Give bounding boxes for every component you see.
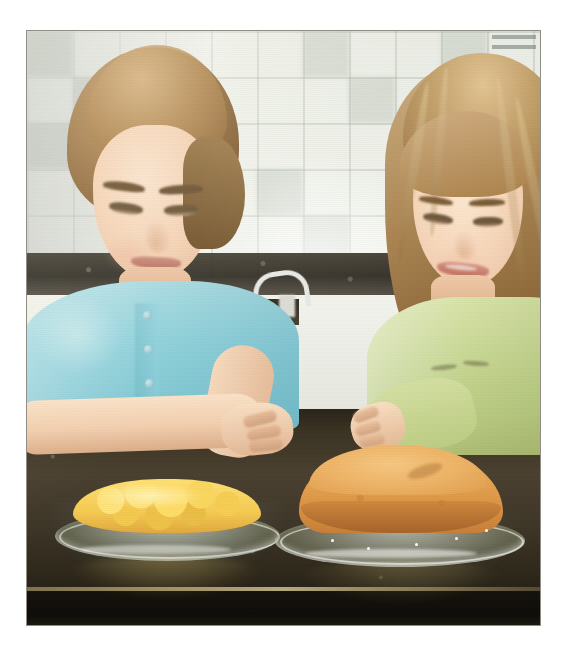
sponge-cake-dish bbox=[275, 443, 525, 573]
girl-left bbox=[27, 45, 307, 445]
sponge-cake-top bbox=[309, 445, 487, 495]
glass-plate-highlight-left bbox=[81, 545, 231, 554]
girl-right-nose bbox=[455, 231, 477, 259]
watermark-line bbox=[492, 45, 536, 49]
girl-left-nose bbox=[146, 221, 171, 253]
shirt-button bbox=[145, 379, 154, 388]
wall-tile-shade bbox=[303, 31, 349, 77]
glass-sparkle bbox=[331, 539, 334, 542]
page-root bbox=[0, 0, 570, 651]
glass-sparkle bbox=[367, 547, 370, 550]
glass-sparkle bbox=[485, 529, 488, 532]
shirt-button bbox=[144, 345, 153, 354]
photograph-frame bbox=[27, 31, 540, 625]
glass-plate-highlight-right bbox=[305, 549, 477, 558]
girl-left-shoulder-highlight bbox=[33, 295, 123, 375]
glass-sparkle bbox=[415, 543, 418, 546]
watermark-line bbox=[492, 35, 536, 39]
girl-right bbox=[357, 51, 540, 451]
corner-watermark bbox=[492, 35, 536, 49]
photograph-canvas bbox=[27, 31, 540, 625]
fruit-topping-highlight bbox=[95, 483, 205, 509]
glass-sparkle bbox=[455, 537, 458, 540]
fruit-dessert-dish bbox=[55, 473, 280, 565]
shirt-button bbox=[143, 311, 152, 320]
fruit-dessert-reflection bbox=[63, 555, 268, 599]
